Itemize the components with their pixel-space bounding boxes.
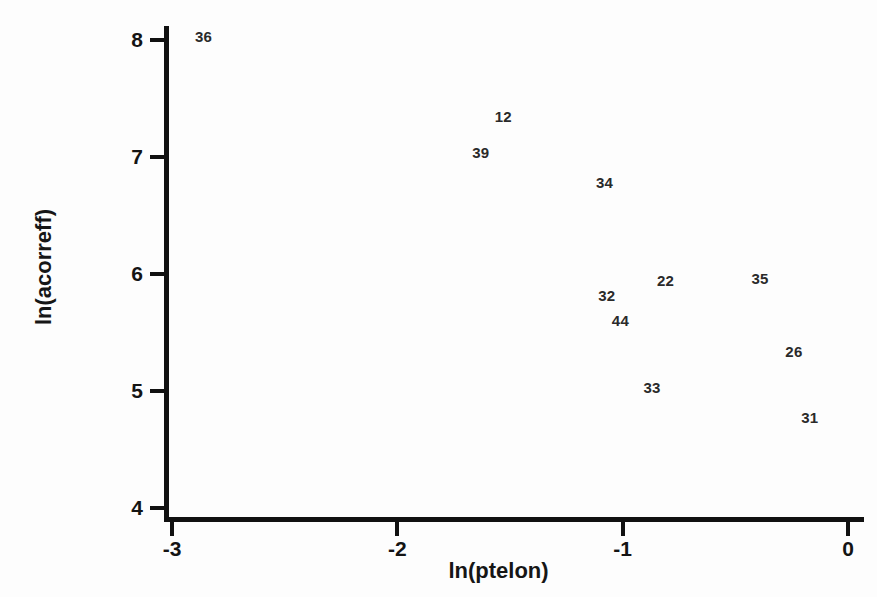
- data-point-label: 39: [472, 145, 489, 160]
- data-point-label: 32: [598, 288, 615, 303]
- y-tick-mark: [150, 272, 165, 276]
- y-tick-mark: [150, 506, 165, 510]
- scatter-plot-figure: 45678 -3-2-10 3612393422353244263331 ln(…: [0, 0, 877, 597]
- y-tick-label: 7: [109, 146, 143, 167]
- y-tick-mark: [150, 155, 165, 159]
- x-tick-mark: [621, 521, 625, 536]
- y-axis-title: ln(acorreff): [31, 137, 57, 397]
- y-tick-label: 4: [109, 497, 143, 518]
- y-tick-label: 5: [109, 380, 143, 401]
- x-tick-label: 0: [818, 538, 877, 559]
- x-axis-title: ln(ptelon): [448, 558, 548, 584]
- data-point-label: 26: [785, 344, 802, 359]
- x-tick-label: -3: [142, 538, 202, 559]
- data-point-label: 35: [752, 270, 769, 285]
- y-tick-label: 8: [109, 29, 143, 50]
- data-point-label: 12: [495, 109, 512, 124]
- x-tick-mark: [846, 521, 850, 536]
- x-tick-mark: [170, 521, 174, 536]
- x-tick-label: -2: [367, 538, 427, 559]
- x-axis-title-container: ln(ptelon): [0, 558, 877, 584]
- y-tick-mark: [150, 38, 165, 42]
- data-point-label: 31: [801, 409, 818, 424]
- y-tick-mark: [150, 389, 165, 393]
- x-tick-label: -1: [593, 538, 653, 559]
- data-point-label: 44: [612, 312, 629, 327]
- y-tick-label: 6: [109, 263, 143, 284]
- data-point-label: 34: [596, 174, 613, 189]
- data-point-label: 36: [195, 29, 212, 44]
- x-tick-mark: [395, 521, 399, 536]
- data-point-label: 22: [657, 272, 674, 287]
- x-axis-line: [164, 517, 864, 522]
- data-point-label: 33: [643, 380, 660, 395]
